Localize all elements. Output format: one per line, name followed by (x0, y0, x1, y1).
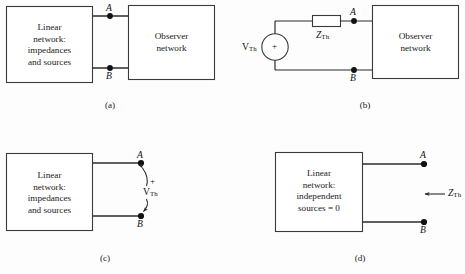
panel-b-source-label-main: V (242, 41, 249, 52)
panel-a-terminal-b-label: B (106, 70, 112, 81)
panel-c-graphics (7, 154, 148, 231)
panel-d-impedance-label-sub: Th (453, 191, 461, 198)
panel-c-voltage-polarity: + (150, 176, 155, 186)
panel-b-impedance-rect (313, 16, 341, 27)
panel-d-caption: (d) (340, 253, 380, 263)
panel-b-caption: (b) (345, 100, 385, 110)
panel-d-terminal-a-label: A (420, 149, 426, 160)
panel-b-source-label: VTh (242, 41, 257, 52)
panel-b-node-a-dot (351, 18, 357, 24)
panel-d-graphics (276, 153, 446, 232)
panel-b-source-label-sub: Th (249, 45, 257, 52)
panel-b-graphics (262, 6, 459, 79)
panel-d-node-a-dot (421, 161, 427, 167)
panel-c-voltage-label: VTh (143, 186, 158, 197)
panel-b-terminal-a-label: A (350, 6, 356, 17)
panel-b-impedance-label: ZTh (316, 29, 329, 40)
panel-c-voltage-arrow-upper (143, 168, 148, 186)
panel-b-terminal-b-label: B (350, 72, 356, 83)
panel-a-node-a-dot (107, 13, 113, 19)
panel-d-impedance-label: ZTh (448, 187, 461, 198)
panel-d-terminal-b-label: B (420, 224, 426, 235)
panel-c-node-a-dot (138, 160, 144, 166)
circuit-vector-layer (0, 0, 465, 274)
panel-c-caption: (c) (85, 253, 125, 263)
panel-a-terminal-a-label: A (106, 2, 112, 13)
panel-c-voltage-label-sub: Th (150, 190, 158, 197)
panel-c-linear-network-rect (7, 154, 93, 231)
panel-c-voltage-label-main: V (143, 186, 150, 197)
panel-a-linear-network-rect (7, 7, 93, 83)
panel-d-linear-network-rect (276, 153, 363, 232)
panel-b-observer-network-rect (373, 6, 459, 79)
panel-c-voltage-arrow-lower (144, 199, 148, 212)
panel-a-observer-network-rect (129, 6, 215, 80)
panel-b-source-polarity: + (272, 41, 277, 51)
panel-b-impedance-label-sub: Th (321, 33, 329, 40)
panel-a-caption: (a) (90, 100, 130, 110)
panel-c-terminal-a-label: A (137, 149, 143, 160)
circuit-figure: Linear network: impedances and sources O… (0, 0, 465, 274)
panel-c-terminal-b-label: B (137, 218, 143, 229)
